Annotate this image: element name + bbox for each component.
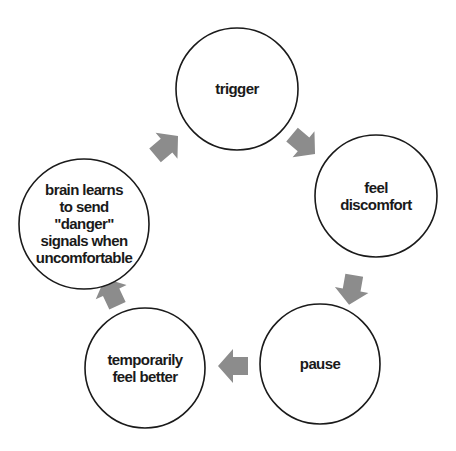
node-feel-discomfort: feeldiscomfort: [315, 135, 437, 257]
node-label-line: to send: [59, 198, 109, 215]
node-label-line: uncomfortable: [36, 249, 133, 266]
node-label-line: temporarily: [107, 351, 183, 368]
arrow-icon-trigger-to-feel-discomfort: [281, 122, 326, 167]
node-label-line: feel: [364, 179, 388, 196]
node-label-line: discomfort: [340, 196, 412, 213]
node-label-line: trigger: [215, 80, 259, 97]
cycle-diagram: triggerfeeldiscomfortpausetemporarilyfee…: [0, 0, 456, 451]
node-label-line: brain learns: [45, 181, 123, 198]
node-brain-learns: brain learnsto send"danger"signals whenu…: [19, 159, 149, 289]
node-trigger: trigger: [176, 28, 298, 150]
node-temporarily-feel-better: temporarilyfeel better: [85, 308, 205, 428]
node-label-line: signals when: [41, 232, 128, 249]
arrow-icon-brain-learns-to-trigger: [144, 123, 189, 168]
node-label-line: "danger": [54, 215, 114, 232]
arrow-icon-feel-discomfort-to-pause: [332, 272, 371, 307]
node-pause: pause: [260, 304, 380, 424]
arrow-icon-pause-to-temporarily-feel-better: [218, 349, 248, 383]
node-label-line: pause: [300, 355, 341, 372]
node-label-line: feel better: [112, 368, 178, 385]
